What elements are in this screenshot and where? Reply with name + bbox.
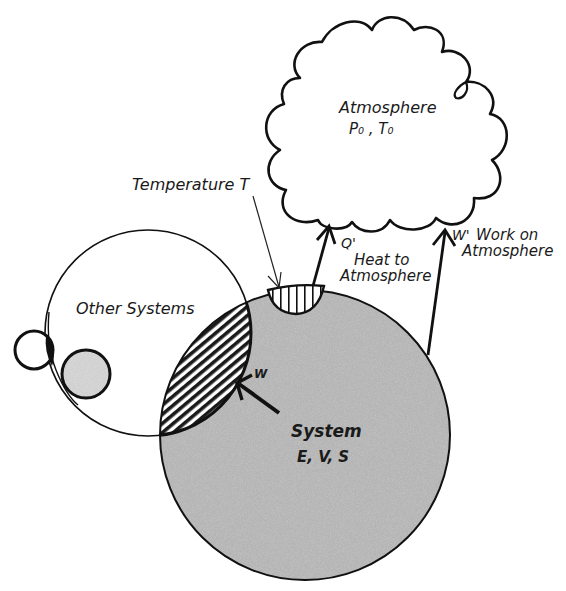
atmosphere-title: Atmosphere <box>338 98 437 117</box>
work-other-symbol: W <box>254 367 268 381</box>
work-flow-arrow <box>428 230 455 355</box>
heat-label-line2: Atmosphere <box>339 267 431 285</box>
thermodynamic-system-diagram: Atmosphere P₀ , T₀ Temperature T Other S… <box>0 0 566 591</box>
overlap-region-hatched <box>45 230 251 436</box>
work-symbol: W' <box>452 227 470 243</box>
temperature-label: Temperature T <box>132 175 251 194</box>
system-properties: E, V, S <box>297 448 349 466</box>
heat-flow-arrow <box>313 226 335 286</box>
small-system-circle-stippled <box>62 350 110 398</box>
heat-symbol: Q' <box>341 235 356 251</box>
atmosphere-properties: P₀ , T₀ <box>349 120 394 138</box>
temperature-pointer-arrow <box>253 196 281 288</box>
system-title: System <box>291 421 362 441</box>
other-systems-label: Other Systems <box>76 299 195 318</box>
work-label-line2: Atmosphere <box>461 242 553 260</box>
